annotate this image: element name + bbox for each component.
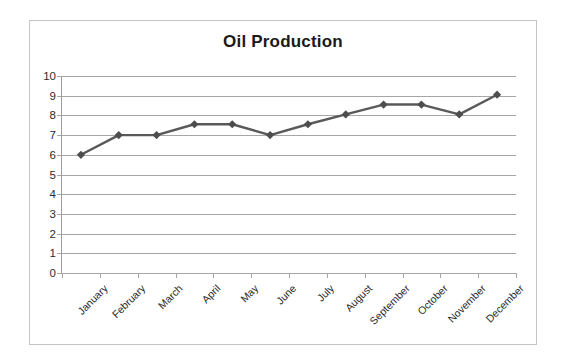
x-tick-label-december: December <box>483 282 526 325</box>
x-tick-label-april: April <box>200 282 223 305</box>
y-tick-mark-8 <box>57 115 61 116</box>
y-tick-mark-0 <box>57 273 61 274</box>
x-tick-mark-6 <box>289 273 290 278</box>
x-tick-mark-7 <box>327 273 328 278</box>
y-tick-mark-9 <box>57 96 61 97</box>
data-point-marker-february <box>115 131 123 139</box>
data-point-marker-october <box>417 100 425 108</box>
data-point-marker-january <box>77 151 85 159</box>
chart-title: Oil Production <box>30 32 536 52</box>
x-tick-label-october: October <box>415 282 450 317</box>
x-tick-mark-5 <box>251 273 252 278</box>
data-point-marker-december <box>493 91 501 99</box>
data-point-marker-may <box>228 120 236 128</box>
x-tick-mark-3 <box>176 273 177 278</box>
y-tick-label-2: 2 <box>50 228 56 240</box>
y-tick-mark-1 <box>57 253 61 254</box>
x-tick-mark-4 <box>213 273 214 278</box>
y-tick-label-4: 4 <box>50 188 56 200</box>
x-tick-label-march: March <box>156 282 185 311</box>
y-tick-mark-7 <box>57 135 61 136</box>
y-tick-label-7: 7 <box>50 129 56 141</box>
x-tick-label-may: May <box>238 282 261 305</box>
data-point-marker-august <box>342 110 350 118</box>
chart-frame: Oil Production 012345678910 JanuaryFebru… <box>29 20 537 345</box>
y-tick-mark-3 <box>57 214 61 215</box>
y-tick-label-1: 1 <box>50 247 56 259</box>
x-tick-mark-9 <box>403 273 404 278</box>
x-tick-mark-8 <box>365 273 366 278</box>
y-tick-label-0: 0 <box>50 267 56 279</box>
chart-screenshot: Oil Production 012345678910 JanuaryFebru… <box>0 0 562 363</box>
y-tick-label-5: 5 <box>50 169 56 181</box>
x-tick-mark-10 <box>440 273 441 278</box>
data-point-marker-june <box>266 131 274 139</box>
x-tick-mark-2 <box>138 273 139 278</box>
data-point-marker-september <box>379 100 387 108</box>
series-polyline <box>81 95 497 155</box>
x-tick-label-august: August <box>343 282 375 314</box>
x-tick-label-june: June <box>274 282 299 307</box>
x-tick-label-september: September <box>367 282 412 327</box>
x-tick-label-february: February <box>109 282 147 320</box>
y-tick-label-6: 6 <box>50 149 56 161</box>
y-tick-label-8: 8 <box>50 109 56 121</box>
series-line-oil-production <box>62 76 516 273</box>
x-tick-label-january: January <box>74 282 109 317</box>
y-tick-mark-5 <box>57 175 61 176</box>
plot-area: 012345678910 JanuaryFebruaryMarchAprilMa… <box>62 76 516 273</box>
y-tick-label-3: 3 <box>50 208 56 220</box>
x-tick-mark-11 <box>478 273 479 278</box>
data-point-marker-july <box>304 120 312 128</box>
x-tick-label-july: July <box>315 282 337 304</box>
x-tick-mark-12 <box>516 273 517 278</box>
y-tick-mark-10 <box>57 76 61 77</box>
y-tick-label-10: 10 <box>43 70 56 82</box>
x-tick-mark-1 <box>100 273 101 278</box>
x-tick-mark-0 <box>62 273 63 278</box>
y-tick-mark-6 <box>57 155 61 156</box>
y-tick-mark-4 <box>57 194 61 195</box>
x-tick-label-november: November <box>445 282 488 325</box>
y-tick-mark-2 <box>57 234 61 235</box>
data-point-marker-march <box>152 131 160 139</box>
data-point-marker-november <box>455 110 463 118</box>
y-tick-label-9: 9 <box>50 90 56 102</box>
data-point-marker-april <box>190 120 198 128</box>
